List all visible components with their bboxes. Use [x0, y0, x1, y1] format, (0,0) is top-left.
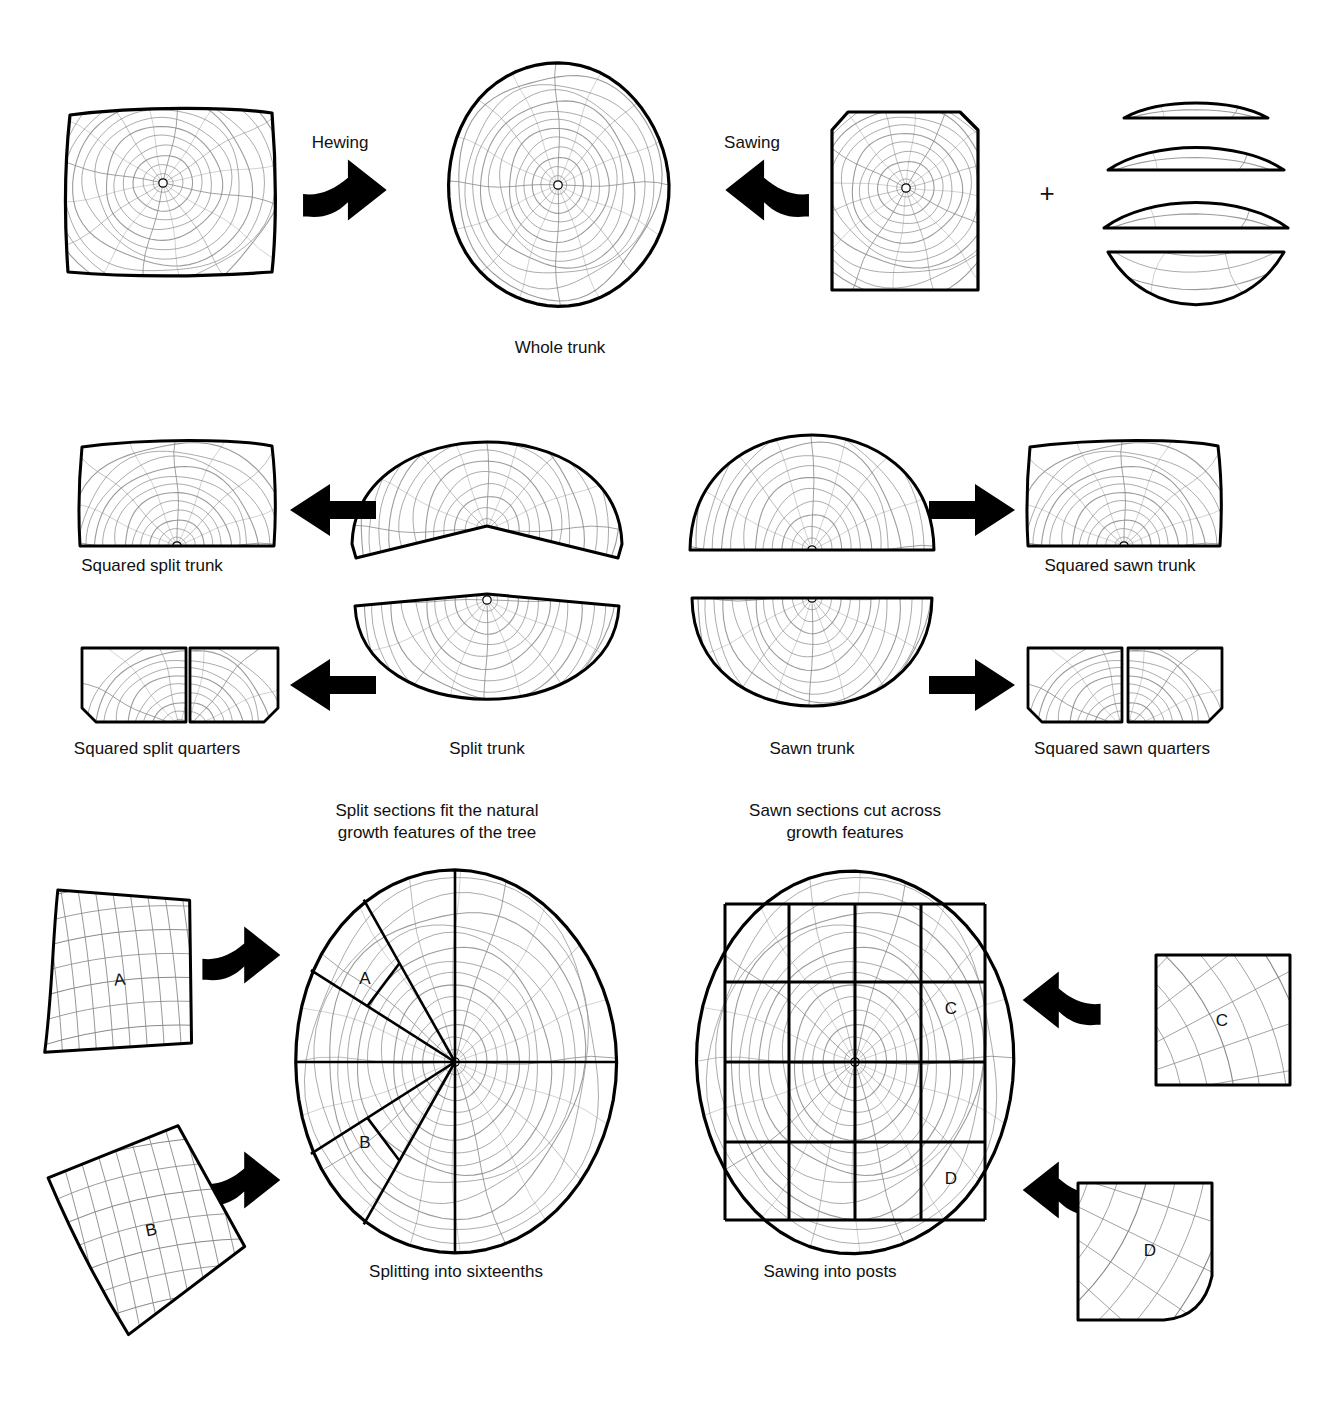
arrow-post-C — [1023, 972, 1101, 1029]
arrow-square-split-quarters — [290, 659, 376, 711]
arrow-hewing — [303, 159, 387, 220]
post-label-C: C — [1216, 1011, 1228, 1030]
arrow-sawing — [725, 159, 809, 220]
squared-split-trunk — [42, 414, 312, 679]
arrow-square-sawn-trunk — [929, 484, 1015, 536]
splitting-into-sixteenths-section: AB — [232, 794, 678, 1330]
sawing-into-posts-section: CD — [632, 791, 1078, 1333]
caption-squared-split-quarters: Squared split quarters — [74, 738, 240, 760]
post-label-C-in-log: C — [945, 999, 957, 1018]
note-sawn-sections: Sawn sections cut across growth features — [749, 800, 941, 844]
figure-canvas: ABABCDCD Hewing Sawing Whole trunk + Squ… — [0, 0, 1331, 1402]
caption-whole-trunk: Whole trunk — [515, 337, 606, 359]
whole-trunk-section — [418, 29, 699, 340]
wedge-label-B-in-log: B — [359, 1133, 370, 1152]
process-label-hewing: Hewing — [312, 132, 369, 154]
squared-sawn-trunk — [989, 414, 1259, 679]
process-label-sawing: Sawing — [724, 132, 780, 154]
caption-split-trunk: Split trunk — [449, 738, 525, 760]
caption-sawing-into-posts: Sawing into posts — [763, 1261, 896, 1283]
wedge-label-A-in-log: A — [359, 969, 371, 988]
caption-splitting-into-sixteenths: Splitting into sixteenths — [369, 1261, 543, 1283]
note-split-sections: Split sections fit the natural growth fe… — [335, 800, 538, 844]
arrow-square-sawn-quarters — [929, 659, 1015, 711]
caption-squared-split-trunk: Squared split trunk — [81, 555, 223, 577]
plus-sign: + — [1039, 182, 1054, 204]
timber-conversion-artwork: ABABCDCD — [0, 0, 1331, 1402]
extracted-wedge-B: B — [21, 1105, 270, 1363]
sawn-squared-trunk — [767, 54, 1045, 323]
arrow-wedge-A — [202, 927, 280, 984]
extracted-wedge-A: A — [0, 861, 220, 1076]
caption-sawn-trunk: Sawn trunk — [769, 738, 854, 760]
caption-squared-sawn-quarters: Squared sawn quarters — [1034, 738, 1210, 760]
caption-squared-sawn-trunk: Squared sawn trunk — [1044, 555, 1195, 577]
hewn-squared-trunk — [18, 45, 307, 320]
post-label-D: D — [1144, 1241, 1156, 1260]
post-label-D-in-log: D — [945, 1169, 957, 1188]
